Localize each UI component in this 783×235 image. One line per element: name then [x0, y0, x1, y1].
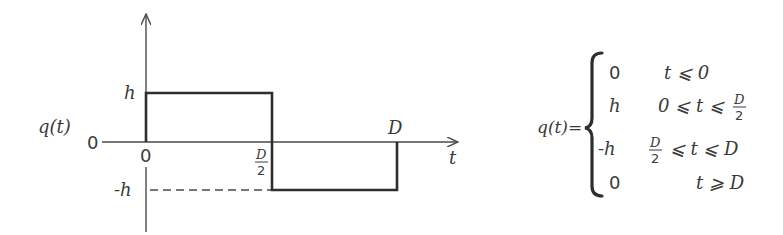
case-1-value: 0 — [609, 62, 620, 83]
case-3-condition: ⩽ t ⩽ D — [664, 138, 739, 159]
case-1-condition: t ⩽ 0 — [664, 62, 709, 83]
case-3-frac-denominator: 2 — [651, 151, 659, 166]
case-4-condition: t ⩾ D — [696, 172, 745, 193]
case-2-frac-denominator: 2 — [735, 108, 743, 123]
case-3-frac-numerator: D — [649, 135, 661, 150]
y-tick-zero: 0 — [87, 132, 98, 153]
piecewise-equation: q(t)= 0 t ⩽ 0 h 0 ⩽ t ⩽ D 2 -h D 2 ⩽ t ⩽… — [537, 53, 746, 196]
x-tick-zero: 0 — [140, 145, 151, 166]
y-axis-label: q(t) — [38, 116, 71, 137]
x-tick-d: D — [387, 117, 403, 138]
square-pulse-diagram: q(t) 0 h -h 0 D 2 D t q(t)= 0 t ⩽ 0 h 0 … — [0, 0, 783, 235]
case-2-value: h — [609, 95, 621, 116]
y-tick-neg-h: -h — [114, 179, 132, 200]
x-tick-half-d-numerator: D — [255, 147, 267, 162]
case-4-value: 0 — [609, 172, 620, 193]
equation-lhs: q(t)= — [537, 117, 582, 137]
left-brace — [585, 53, 602, 196]
case-2-condition: 0 ⩽ t ⩽ — [658, 95, 730, 116]
x-axis-label: t — [449, 147, 457, 168]
case-3-value: -h — [598, 138, 616, 159]
y-tick-h: h — [124, 82, 136, 103]
x-tick-half-d-denominator: 2 — [257, 163, 265, 178]
case-2-frac-numerator: D — [733, 92, 745, 107]
